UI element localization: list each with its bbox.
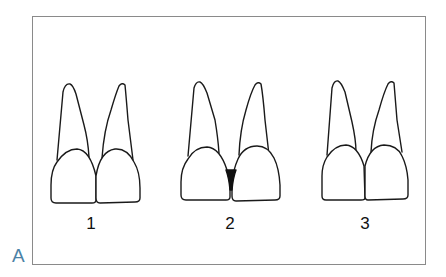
group-label-3: 3	[360, 214, 369, 233]
tooth-pair-1	[51, 84, 140, 203]
group-label-2: 2	[225, 214, 234, 233]
tooth-pair-2	[181, 82, 280, 201]
teeth-diagram: 1 2 3	[0, 0, 446, 277]
tooth-pair-3	[322, 81, 408, 200]
group-label-1: 1	[86, 214, 95, 233]
panel-label: A	[12, 246, 25, 266]
